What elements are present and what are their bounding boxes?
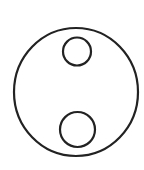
circle-diagram: [0, 0, 144, 170]
bottom-inner-circle: [60, 112, 95, 147]
top-inner-circle: [63, 38, 91, 66]
outer-circle: [14, 28, 138, 156]
diagram-canvas: [0, 0, 144, 170]
